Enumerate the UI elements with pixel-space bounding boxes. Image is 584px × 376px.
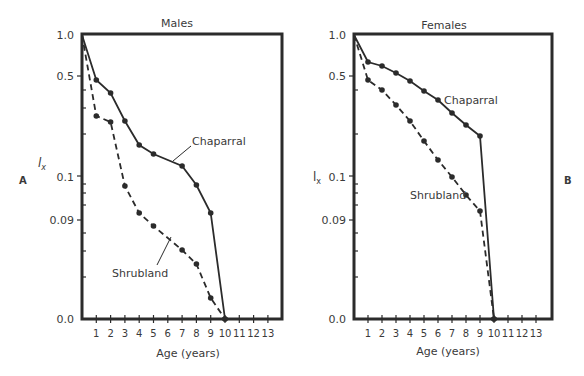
data-point — [194, 182, 200, 188]
data-point — [379, 87, 385, 93]
males-shrubland-label: Shrubland — [112, 267, 168, 280]
females-title: Females — [421, 19, 467, 32]
data-point — [94, 113, 100, 119]
data-point — [194, 261, 200, 267]
females-chaparral-label: Chaparral — [444, 94, 498, 107]
data-point — [108, 119, 114, 125]
x-tick-label: 10 — [488, 328, 501, 339]
data-point — [477, 133, 483, 139]
males-x-label: Age (years) — [156, 347, 220, 360]
males-shrubland-leader — [157, 237, 171, 265]
x-tick-label: 1 — [365, 328, 371, 339]
females-y-tick-0.09: 0.09 — [322, 214, 347, 227]
females-shrubland-line — [354, 35, 494, 319]
data-point — [151, 151, 157, 157]
data-point — [179, 247, 185, 253]
data-point — [491, 316, 497, 322]
x-tick-label: 11 — [502, 328, 515, 339]
data-point — [122, 118, 128, 124]
males-y-tick-1.0: 1.0 — [57, 29, 75, 42]
males-panel: Males 1.0 0.5 0.1 0.09 0.0 lx A 12345678… — [19, 17, 282, 360]
data-point — [208, 210, 214, 216]
data-point — [393, 70, 399, 76]
data-point — [136, 210, 142, 216]
males-chaparral-points — [94, 77, 228, 322]
life-table-figure: Males 1.0 0.5 0.1 0.09 0.0 lx A 12345678… — [0, 0, 584, 376]
males-y-label: lx — [38, 156, 46, 172]
females-y-tick-0.1: 0.1 — [329, 171, 347, 184]
males-y-tick-0.5: 0.5 — [57, 70, 75, 83]
data-point — [463, 122, 469, 128]
x-tick-label: 13 — [262, 328, 275, 339]
males-chaparral-leader — [173, 146, 191, 161]
females-y-label: lx — [313, 170, 321, 186]
females-y-tick-0.0: 0.0 — [329, 313, 347, 326]
x-tick-label: 7 — [179, 328, 185, 339]
females-panel-label: B — [564, 175, 572, 186]
data-point — [108, 90, 114, 96]
x-tick-label: 11 — [233, 328, 246, 339]
x-tick-label: 2 — [107, 328, 113, 339]
females-x-label: Age (years) — [416, 345, 480, 358]
females-y-tick-0.5: 0.5 — [329, 70, 347, 83]
x-tick-label: 5 — [421, 328, 427, 339]
females-chaparral-line — [354, 35, 494, 319]
x-tick-label: 6 — [165, 328, 171, 339]
data-point — [449, 110, 455, 116]
data-point — [449, 174, 455, 180]
x-tick-label: 8 — [463, 328, 469, 339]
data-point — [122, 183, 128, 189]
data-point — [393, 102, 399, 108]
data-point — [407, 118, 413, 124]
data-point — [435, 157, 441, 163]
males-title: Males — [161, 17, 193, 30]
data-point — [365, 59, 371, 65]
x-tick-label: 9 — [208, 328, 214, 339]
males-panel-label: A — [19, 175, 27, 186]
x-tick-label: 3 — [393, 328, 399, 339]
males-y-tick-0.09: 0.09 — [50, 214, 75, 227]
data-point — [477, 208, 483, 214]
data-point — [435, 97, 441, 103]
males-y-tick-0.0: 0.0 — [57, 313, 75, 326]
females-shrubland-label: Shrubland — [410, 189, 466, 202]
data-point — [407, 78, 413, 84]
males-chaparral-label: Chaparral — [192, 135, 246, 148]
x-tick-label: 4 — [407, 328, 413, 339]
x-tick-label: 4 — [136, 328, 142, 339]
x-tick-label: 7 — [449, 328, 455, 339]
data-point — [151, 223, 157, 229]
x-tick-label: 8 — [193, 328, 199, 339]
x-tick-label: 2 — [379, 328, 385, 339]
data-point — [136, 142, 142, 148]
data-point — [208, 295, 214, 301]
x-tick-label: 10 — [219, 328, 232, 339]
data-point — [421, 88, 427, 94]
data-point — [365, 77, 371, 83]
data-point — [379, 63, 385, 69]
females-panel: Females 1.0 0.5 0.1 0.09 0.0 lx B 123456… — [313, 19, 572, 358]
data-point — [421, 138, 427, 144]
data-point — [222, 316, 228, 322]
data-point — [94, 77, 100, 83]
x-tick-label: 9 — [477, 328, 483, 339]
x-tick-label: 6 — [435, 328, 441, 339]
x-tick-label: 12 — [516, 328, 529, 339]
data-point — [179, 163, 185, 169]
x-tick-label: 13 — [530, 328, 543, 339]
females-y-tick-1.0: 1.0 — [329, 29, 347, 42]
males-y-tick-0.1: 0.1 — [57, 171, 75, 184]
x-tick-label: 12 — [247, 328, 260, 339]
x-tick-label: 1 — [93, 328, 99, 339]
x-tick-label: 5 — [150, 328, 156, 339]
x-tick-label: 3 — [122, 328, 128, 339]
